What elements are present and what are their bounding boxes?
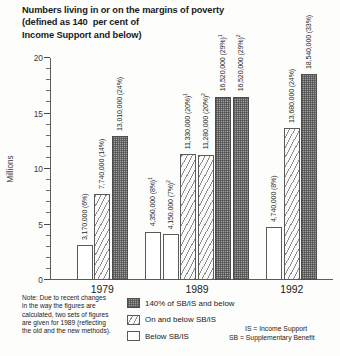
bar: 18,540,000 (33%) (301, 74, 317, 280)
y-tick-5 (44, 224, 50, 225)
key-income-support: IS = Income Support (245, 324, 315, 333)
y-tick-1 (46, 268, 50, 269)
bar-value-label: 4,150,000 (7%)2 (164, 180, 174, 229)
chart-footnote: Note: Due to recent changes in the way t… (22, 294, 112, 335)
y-tick-2 (46, 257, 50, 258)
y-tick-18 (46, 79, 50, 80)
chart-legend: 140% of SB/IS and belowOn and below SB/I… (127, 296, 235, 346)
chart-title-line-3: Income Support and below) (22, 29, 237, 41)
y-tick-3 (46, 246, 50, 247)
bar-label-footnote-marker: 2 (199, 94, 205, 97)
y-tick-16 (46, 101, 50, 102)
bar: 16,520,000 (29%)2 (233, 97, 249, 280)
y-tick-4 (46, 235, 50, 236)
y-tick-label-20: 20 (34, 53, 43, 63)
bar-value-label: 7,740,000 (14%) (98, 139, 106, 189)
bar: 16,520,000 (29%)1 (215, 97, 231, 280)
y-tick-8 (46, 190, 50, 191)
bar-value-label: 11,280,000 (20%)2 (199, 94, 209, 150)
y-tick-13 (46, 135, 50, 136)
bar-value-label: 11,330,000 (20%)1 (182, 93, 192, 149)
bar: 4,150,000 (7%)2 (163, 234, 179, 280)
y-tick-7 (46, 201, 50, 202)
bar-value-label: 3,170,000 (6%) (81, 193, 89, 239)
chart-title: Numbers living in or on the margins of p… (22, 4, 237, 41)
key-supplementary-benefit: SB = Supplementary Benefit (229, 333, 315, 342)
y-tick-label-15: 15 (34, 109, 43, 119)
y-tick-label-0: 0 (38, 275, 43, 285)
y-tick-11 (46, 157, 50, 158)
y-tick-0 (44, 279, 50, 280)
bar: 13,680,000 (24%) (284, 128, 300, 280)
bar-value-label: 16,520,000 (29%)2 (234, 35, 244, 92)
x-axis-label-1989: 1989 (185, 284, 208, 295)
legend-swatch (127, 315, 140, 325)
legend-item: Below SB/IS (127, 329, 235, 343)
bar-value-label: 4,740,000 (8%) (270, 176, 278, 222)
y-axis-title: Millions (6, 155, 15, 182)
bar: 3,170,000 (6%) (77, 245, 93, 280)
legend-label: 140% of SB/IS and below (145, 299, 235, 308)
bar: 13,010,000 (24%) (112, 136, 128, 280)
y-tick-17 (46, 90, 50, 91)
y-tick-12 (46, 146, 50, 147)
y-tick-15 (44, 113, 50, 114)
legend-item: 140% of SB/IS and below (127, 296, 235, 310)
poverty-bar-chart: Numbers living in or on the margins of p… (0, 0, 340, 356)
bar-value-label: 13,680,000 (24%) (288, 69, 296, 123)
y-tick-9 (46, 179, 50, 180)
legend-item: On and below SB/IS (127, 313, 235, 327)
bar: 4,350,000 (8%)1 (145, 232, 161, 280)
bar-label-footnote-marker: 2 (164, 180, 170, 183)
y-tick-label-5: 5 (38, 220, 43, 230)
bar: 7,740,000 (14%) (94, 194, 110, 280)
y-tick-19 (46, 68, 50, 69)
y-tick-6 (46, 212, 50, 213)
bar-label-footnote-marker: 2 (234, 35, 240, 38)
bar-label-footnote-marker: 1 (217, 35, 223, 38)
legend-label: On and below SB/IS (145, 315, 216, 324)
y-tick-10 (44, 168, 50, 169)
legend-swatch (127, 331, 140, 341)
bar: 11,280,000 (20%)2 (198, 155, 214, 280)
plot-area: Millions 05101520 3,170,000 (6%)7,740,00… (50, 58, 333, 280)
abbreviation-key: IS = Income Support SB = Supplementary B… (245, 324, 315, 342)
bar-value-label: 13,010,000 (24%) (116, 77, 124, 131)
legend-swatch (127, 298, 140, 308)
bar-label-footnote-marker: 1 (182, 93, 188, 96)
y-tick-14 (46, 124, 50, 125)
bar-value-label: 16,520,000 (29%)1 (217, 35, 227, 92)
bar-label-footnote-marker: 1 (147, 178, 153, 181)
legend-label: Below SB/IS (145, 332, 189, 341)
y-tick-20 (44, 57, 50, 58)
y-axis-line (50, 58, 51, 280)
chart-title-line-1: Numbers living in or on the margins of p… (22, 4, 237, 16)
bar-value-label: 18,540,000 (33%) (305, 15, 313, 69)
y-tick-label-10: 10 (34, 164, 43, 174)
bar: 11,330,000 (20%)1 (180, 154, 196, 280)
bar-value-label: 4,350,000 (8%)1 (147, 178, 157, 227)
chart-title-line-2: (defined as 140 per cent of (22, 16, 237, 28)
bar: 4,740,000 (8%) (266, 227, 282, 280)
x-axis-label-1992: 1992 (280, 284, 303, 295)
